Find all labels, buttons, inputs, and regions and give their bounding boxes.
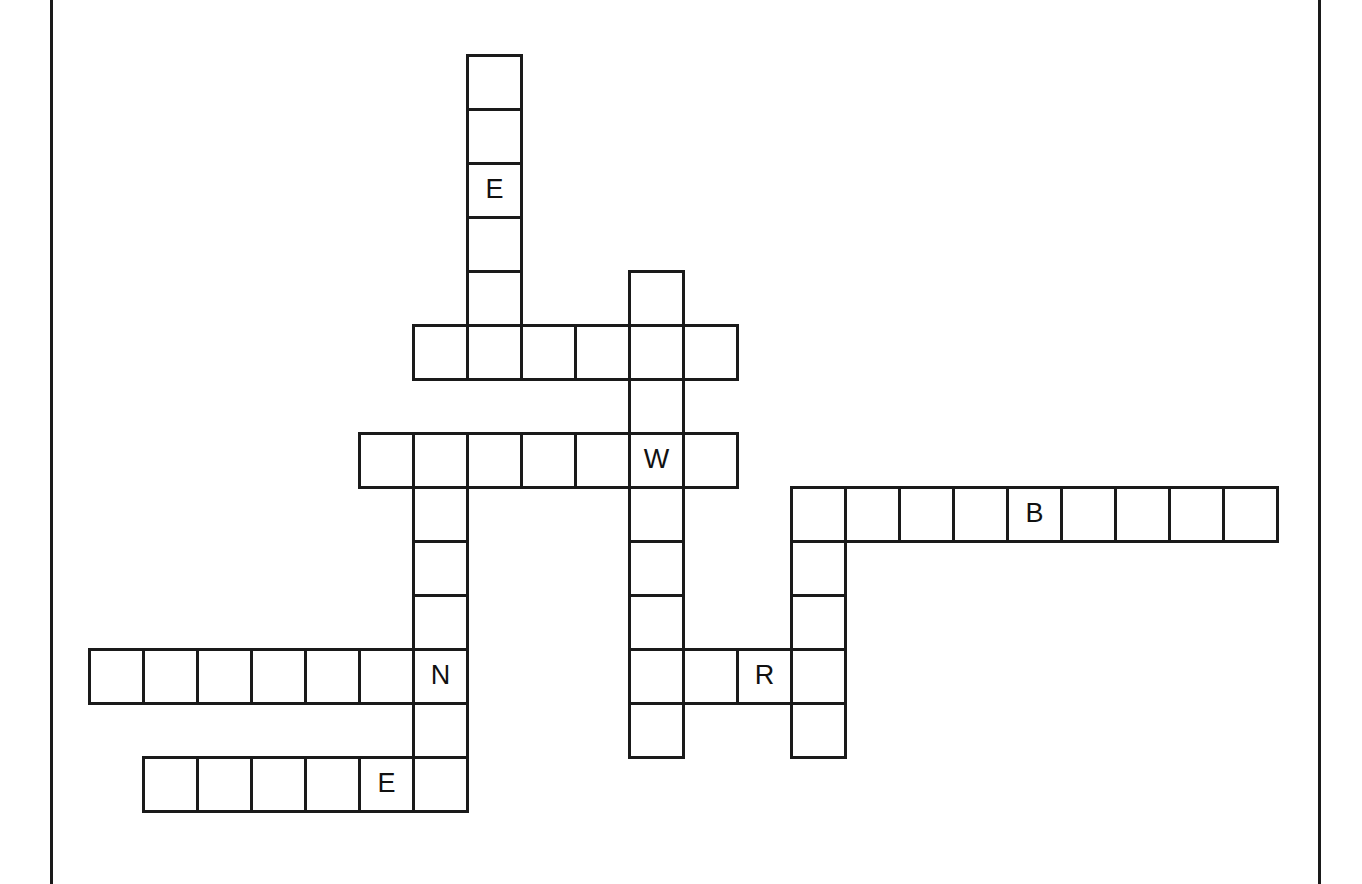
crossword-cell-empty[interactable] <box>250 648 307 705</box>
crossword-cell-empty[interactable] <box>1114 486 1171 543</box>
crossword-cell-empty[interactable] <box>682 324 739 381</box>
crossword-cell-filled[interactable]: R <box>736 648 793 705</box>
crossword-cell-empty[interactable] <box>952 486 1009 543</box>
crossword-cell-empty[interactable] <box>412 432 469 489</box>
crossword-cell-empty[interactable] <box>628 270 685 327</box>
crossword-cell-empty[interactable] <box>466 54 523 111</box>
crossword-cell-empty[interactable] <box>790 594 847 651</box>
crossword-cell-empty[interactable] <box>682 432 739 489</box>
crossword-grid: EWBNRE <box>0 0 1362 884</box>
crossword-cell-empty[interactable] <box>1168 486 1225 543</box>
crossword-cell-letter: B <box>1025 500 1043 527</box>
crossword-cell-empty[interactable] <box>250 756 307 813</box>
crossword-cell-empty[interactable] <box>466 270 523 327</box>
crossword-cell-filled[interactable]: W <box>628 432 685 489</box>
crossword-cell-empty[interactable] <box>628 594 685 651</box>
crossword-cell-empty[interactable] <box>466 324 523 381</box>
crossword-cell-empty[interactable] <box>466 108 523 165</box>
crossword-cell-empty[interactable] <box>790 540 847 597</box>
crossword-cell-empty[interactable] <box>628 648 685 705</box>
crossword-cell-empty[interactable] <box>304 648 361 705</box>
crossword-cell-empty[interactable] <box>628 540 685 597</box>
crossword-cell-filled[interactable]: B <box>1006 486 1063 543</box>
crossword-cell-empty[interactable] <box>412 756 469 813</box>
crossword-cell-empty[interactable] <box>412 702 469 759</box>
crossword-cell-empty[interactable] <box>574 324 631 381</box>
crossword-cell-letter: R <box>755 662 775 689</box>
crossword-cell-empty[interactable] <box>844 486 901 543</box>
crossword-cell-empty[interactable] <box>142 756 199 813</box>
crossword-cell-filled[interactable]: E <box>466 162 523 219</box>
crossword-cell-letter: E <box>485 176 503 203</box>
crossword-cell-empty[interactable] <box>574 432 631 489</box>
crossword-cell-empty[interactable] <box>1222 486 1279 543</box>
crossword-cell-letter: W <box>644 446 669 473</box>
crossword-cell-empty[interactable] <box>412 324 469 381</box>
crossword-cell-letter: E <box>377 770 395 797</box>
crossword-cell-empty[interactable] <box>898 486 955 543</box>
crossword-cell-empty[interactable] <box>520 324 577 381</box>
crossword-cell-empty[interactable] <box>628 378 685 435</box>
crossword-cell-empty[interactable] <box>304 756 361 813</box>
crossword-cell-empty[interactable] <box>88 648 145 705</box>
crossword-cell-empty[interactable] <box>682 648 739 705</box>
crossword-cell-empty[interactable] <box>1060 486 1117 543</box>
crossword-cell-empty[interactable] <box>358 432 415 489</box>
crossword-cell-filled[interactable]: E <box>358 756 415 813</box>
crossword-cell-empty[interactable] <box>520 432 577 489</box>
crossword-cell-empty[interactable] <box>466 216 523 273</box>
crossword-cell-empty[interactable] <box>412 594 469 651</box>
crossword-cell-empty[interactable] <box>628 486 685 543</box>
crossword-cell-empty[interactable] <box>790 648 847 705</box>
crossword-cell-empty[interactable] <box>790 702 847 759</box>
crossword-cell-filled[interactable]: N <box>412 648 469 705</box>
crossword-page: EWBNRE <box>0 0 1362 884</box>
crossword-cell-empty[interactable] <box>412 486 469 543</box>
crossword-cell-letter: N <box>431 662 451 689</box>
crossword-cell-empty[interactable] <box>142 648 199 705</box>
crossword-cell-empty[interactable] <box>196 756 253 813</box>
crossword-cell-empty[interactable] <box>628 702 685 759</box>
crossword-cell-empty[interactable] <box>196 648 253 705</box>
crossword-cell-empty[interactable] <box>790 486 847 543</box>
crossword-cell-empty[interactable] <box>466 432 523 489</box>
crossword-cell-empty[interactable] <box>358 648 415 705</box>
crossword-cell-empty[interactable] <box>412 540 469 597</box>
crossword-cell-empty[interactable] <box>628 324 685 381</box>
